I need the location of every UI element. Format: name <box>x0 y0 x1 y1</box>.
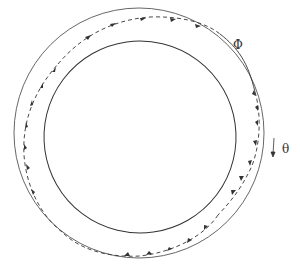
trajectory <box>24 17 259 256</box>
arrowheads <box>24 18 258 256</box>
inner-ellipse <box>32 29 249 246</box>
theta-label: θ <box>282 143 289 155</box>
theta-arrow-icon <box>271 138 275 157</box>
outer-circle <box>14 8 264 258</box>
phase-diagram <box>0 0 300 264</box>
phi-label: Φ <box>233 39 243 51</box>
